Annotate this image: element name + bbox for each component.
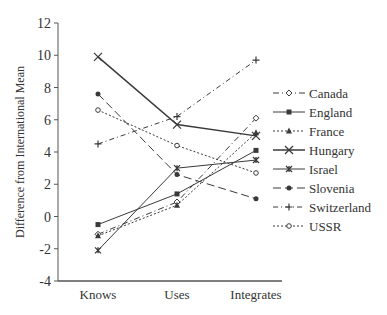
legend-label: Slovenia: [309, 181, 355, 196]
circle-open-marker-icon: [175, 143, 180, 148]
y-tick-label: 8: [44, 81, 51, 96]
legend-item-ussr: USSR: [273, 219, 342, 234]
series-switzerland: [95, 57, 260, 148]
y-tick-label: 12: [37, 16, 51, 31]
legend-item-hungary: Hungary: [273, 143, 355, 158]
square-marker-icon: [175, 191, 180, 196]
series-group: [94, 53, 260, 254]
legend-label: Israel: [309, 162, 338, 177]
legend-item-england: England: [273, 105, 353, 120]
y-axis-label: Difference from International Mean: [13, 66, 27, 238]
y-tick-label: 4: [44, 145, 51, 160]
circle-open-marker-icon: [96, 108, 101, 113]
series-england: [96, 148, 259, 227]
square-marker-icon: [287, 110, 292, 115]
series-hungary: [94, 53, 260, 140]
legend-label: France: [309, 124, 345, 139]
legend-item-israel: Israel: [273, 162, 338, 177]
plus-marker-icon: [174, 113, 181, 120]
legend-label: England: [309, 105, 353, 120]
x-tick-label: Uses: [164, 287, 189, 302]
legend-label: USSR: [309, 219, 342, 234]
legend-label: Canada: [309, 86, 348, 101]
y-tick-label: -4: [39, 274, 51, 289]
circle-marker-icon: [175, 172, 180, 177]
circle-marker-icon: [96, 91, 101, 96]
legend-label: Switzerland: [309, 200, 372, 215]
diamond-open-marker-icon: [286, 90, 292, 96]
legend: CanadaEnglandFranceHungaryIsraelSlovenia…: [273, 86, 372, 234]
y-tick-label: -2: [39, 242, 51, 257]
legend-item-france: France: [273, 124, 345, 139]
plus-marker-icon: [253, 57, 260, 64]
plus-marker-icon: [95, 140, 102, 147]
line-chart: -4-2024681012KnowsUsesIntegrates CanadaE…: [0, 0, 387, 315]
legend-item-canada: Canada: [273, 86, 348, 101]
axes: -4-2024681012KnowsUsesIntegrates: [37, 16, 282, 302]
asterisk-marker-icon: [95, 247, 101, 253]
plus-marker-icon: [286, 204, 293, 211]
x-tick-label: Knows: [80, 287, 117, 302]
x-marker-icon: [94, 53, 102, 61]
y-tick-label: 10: [37, 48, 51, 63]
circle-open-marker-icon: [254, 171, 259, 176]
square-marker-icon: [254, 148, 259, 153]
legend-item-switzerland: Switzerland: [273, 200, 372, 215]
legend-label: Hungary: [309, 143, 355, 158]
circle-marker-icon: [254, 196, 259, 201]
y-tick-label: 6: [44, 113, 51, 128]
circle-open-marker-icon: [287, 224, 292, 229]
square-marker-icon: [96, 222, 101, 227]
x-tick-label: Integrates: [230, 287, 281, 302]
circle-marker-icon: [287, 186, 292, 191]
y-tick-label: 0: [44, 210, 51, 225]
legend-item-slovenia: Slovenia: [273, 181, 355, 196]
y-tick-label: 2: [44, 177, 51, 192]
